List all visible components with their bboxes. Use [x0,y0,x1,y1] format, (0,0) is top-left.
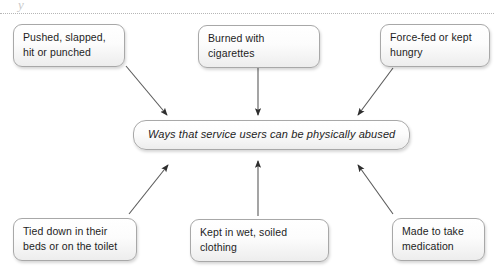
diagram-canvas: y Pushed, slapped, hit or punched Burned… [0,0,494,280]
diagram-node-burned-with-cigarettes: Burned with cigarettes [198,25,320,68]
arrow-top-left [126,66,167,115]
diagram-center-node: Ways that service users can be physicall… [133,120,410,150]
diagram-node-pushed-slapped-hit-or-punched: Pushed, slapped, hit or punched [13,24,125,67]
arrow-bottom-left [129,165,168,214]
dotted-divider [0,13,494,14]
arrow-top-right [358,68,393,115]
arrow-bottom-right [358,165,393,214]
diagram-node-tied-down-in-their-beds-or-on-the-toilet: Tied down in their beds or on the toilet [13,218,137,261]
diagram-node-made-to-take-medication: Made to take medication [392,218,485,261]
diagram-node-kept-in-wet-soiled-clothing: Kept in wet, soiled clothing [190,219,329,262]
page-crop-glyph: y [18,0,24,11]
diagram-node-force-fed-or-kept-hungry: Force-fed or kept hungry [380,24,490,67]
